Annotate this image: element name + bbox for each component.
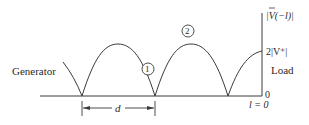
position-label: l = 0 [249, 99, 269, 111]
wave-segment-load [228, 51, 262, 96]
axis-max-label: 2|V⁺| [266, 46, 287, 58]
generator-label: Generator [12, 65, 56, 77]
wave-arch-2 [155, 44, 228, 96]
wave-segment-generator [63, 62, 82, 96]
axis-title: |V(−l)| [266, 10, 294, 22]
spacing-label: d [115, 102, 121, 114]
marker-2-label: 2 [185, 25, 190, 37]
d-arrowhead-right [147, 106, 154, 110]
load-label: Load [271, 64, 294, 76]
d-arrowhead-left [83, 106, 90, 110]
marker-1-label: 1 [145, 63, 150, 75]
